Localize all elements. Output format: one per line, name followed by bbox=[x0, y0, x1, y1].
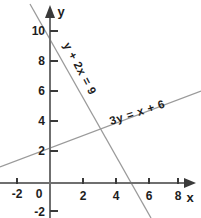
y-tick-label-4: 4 bbox=[38, 114, 45, 128]
y-tick-label-2: 2 bbox=[38, 144, 45, 158]
line-3y-equals-x-plus-6 bbox=[0, 91, 201, 167]
x-axis-label: x bbox=[186, 190, 194, 205]
graph-figure: -2 0 2 4 6 8 10 8 6 4 2 -2 x y y + 2x = … bbox=[0, 0, 201, 218]
x-tick-label-2: 2 bbox=[80, 189, 87, 203]
y-tick-label-minus2: -2 bbox=[34, 205, 45, 218]
x-tick-label-minus2: -2 bbox=[12, 187, 23, 201]
x-tick-label-4: 4 bbox=[113, 189, 120, 203]
x-axis-arrow-icon bbox=[184, 178, 196, 188]
line-label-3y-equals-x-plus-6: 3y = x + 6 bbox=[108, 98, 167, 127]
y-axis-arrow-icon bbox=[45, 5, 55, 18]
y-axis-label: y bbox=[57, 4, 65, 19]
y-tick-label-10: 10 bbox=[32, 24, 46, 38]
x-tick-label-6: 6 bbox=[146, 189, 153, 203]
coordinate-plane-svg: -2 0 2 4 6 8 10 8 6 4 2 -2 x y y + 2x = … bbox=[0, 0, 201, 218]
y-tick-label-8: 8 bbox=[38, 54, 45, 68]
x-tick-label-8: 8 bbox=[175, 189, 182, 203]
x-tick-label-0: 0 bbox=[36, 187, 43, 201]
y-tick-label-6: 6 bbox=[38, 84, 45, 98]
